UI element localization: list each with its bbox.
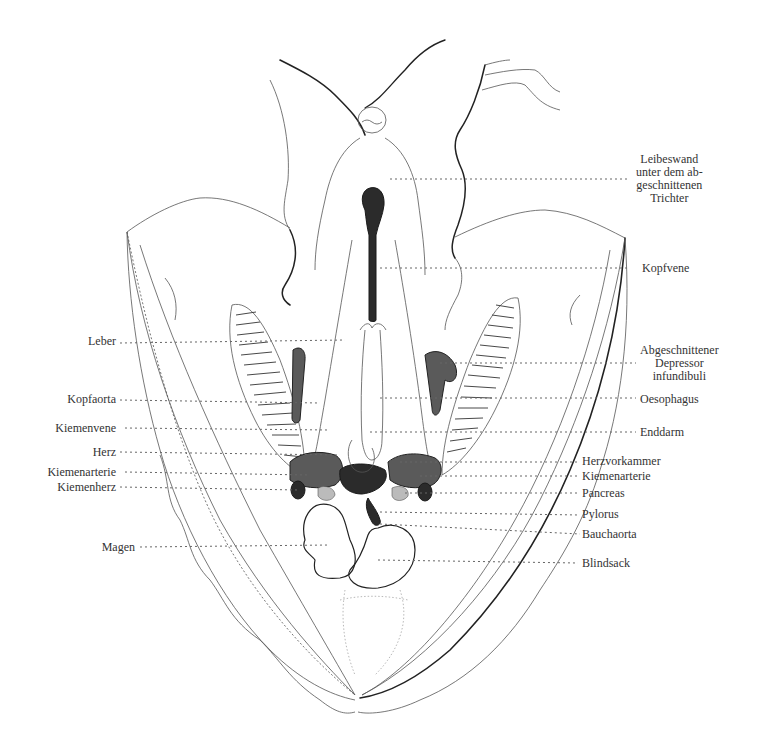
label-kiemenarterie-left: Kiemenarterie: [47, 466, 116, 479]
label-pylorus: Pylorus: [582, 508, 619, 521]
heart-complex: [290, 440, 441, 501]
mantle-outline: [127, 198, 627, 713]
label-magen: Magen: [102, 541, 135, 554]
label-pancreas: Pancreas: [582, 487, 625, 500]
label-herzvorkammer: Herzvorkammer: [582, 455, 661, 468]
label-line: infundibuli: [640, 370, 719, 383]
depressor-muscles: [292, 348, 457, 423]
stomach: [304, 498, 415, 675]
label-kiemenvene: Kiemenvene: [55, 422, 116, 435]
label-bauchaorta: Bauchaorta: [582, 528, 637, 541]
label-oesophagus: Oesophagus: [640, 393, 699, 406]
label-leibeswand: Leibeswand unter dem ab- geschnittenen T…: [636, 153, 703, 205]
kopfvene-structure: [360, 188, 386, 330]
label-blindsack: Blindsack: [582, 557, 630, 570]
label-herz: Herz: [93, 446, 116, 459]
label-enddarm: Enddarm: [640, 426, 684, 439]
label-kiemenarterie-right: Kiemenarterie: [582, 470, 651, 483]
funnel-stumps: [270, 40, 560, 330]
right-gill: [442, 298, 520, 475]
label-leber: Leber: [88, 335, 116, 348]
leader-lines: [120, 179, 636, 563]
label-kopfvene: Kopfvene: [642, 262, 689, 275]
label-depressor: Abgeschnittener Depressor infundibuli: [640, 344, 719, 383]
label-kopfaorta: Kopfaorta: [67, 393, 116, 406]
label-kiemenherz: Kiemenherz: [57, 481, 116, 494]
label-line: Trichter: [636, 192, 703, 205]
